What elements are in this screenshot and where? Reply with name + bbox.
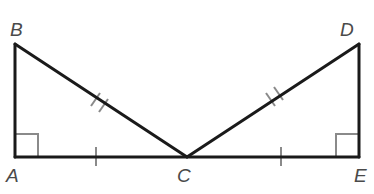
- label-c: C: [177, 166, 191, 185]
- label-d: D: [340, 20, 354, 39]
- label-a: A: [6, 166, 19, 185]
- label-b: B: [10, 20, 23, 39]
- geometry-diagram: B D A C E: [0, 0, 374, 194]
- segment-bc: [15, 44, 187, 157]
- right-angle-marker-a: [15, 134, 38, 157]
- label-e: E: [354, 166, 367, 185]
- right-angle-marker-e: [336, 134, 359, 157]
- segment-cd: [187, 44, 359, 157]
